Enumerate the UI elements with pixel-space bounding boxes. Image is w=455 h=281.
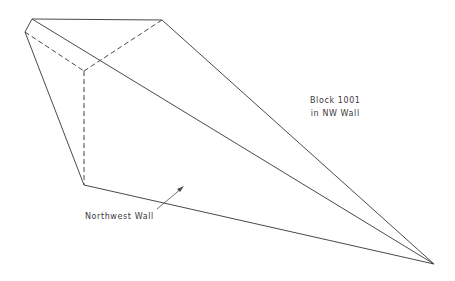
- block-label: Block 1001 in NW Wall: [310, 94, 361, 120]
- edge-top-left-short: [25, 19, 32, 32]
- edge-diagonal: [32, 19, 434, 264]
- hidden-edge-right: [84, 20, 162, 71]
- block-label-line1: Block 1001: [310, 94, 361, 107]
- northwest-wall-label: Northwest Wall: [85, 212, 154, 221]
- block-label-line2: in NW Wall: [310, 107, 361, 120]
- edge-top: [32, 19, 162, 20]
- block-wedge-diagram: [0, 0, 455, 281]
- leader-arrow: [157, 186, 184, 209]
- hidden-edge-left: [25, 32, 84, 71]
- edge-bottom: [84, 185, 434, 264]
- edge-right: [162, 20, 434, 264]
- edge-left: [25, 32, 84, 185]
